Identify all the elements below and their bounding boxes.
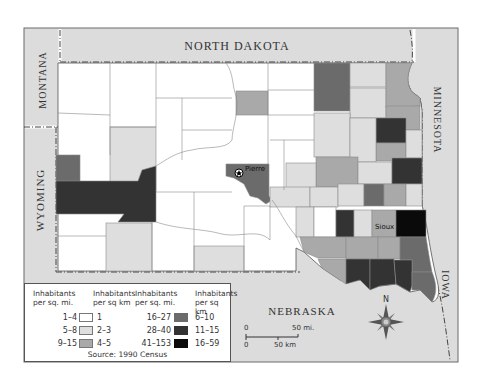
county — [338, 184, 364, 206]
legend-mi-5: 28–40 — [135, 325, 171, 336]
scale-mi-label: 50 mi. — [292, 324, 314, 332]
legend-header-km: Inhabitants per sq km — [93, 289, 133, 307]
label-wyoming: WYOMING — [34, 169, 46, 232]
county-sioux-falls — [396, 210, 426, 237]
label-iowa: IOWA — [440, 270, 451, 300]
legend-swatch-5 — [174, 326, 188, 335]
county — [350, 63, 386, 87]
county — [286, 163, 316, 189]
legend-header-mi: Inhabitants per sq. mi. — [33, 289, 75, 307]
county — [364, 184, 384, 206]
legend-km-3: 4–5 — [97, 338, 111, 349]
legend-mi-4: 16–27 — [135, 312, 171, 323]
city-label-sioux: Sioux — [375, 223, 394, 231]
legend-km-4: 6–10 — [195, 312, 214, 323]
legend-swatch-6 — [174, 339, 188, 348]
county — [336, 210, 354, 237]
county — [406, 184, 422, 206]
county — [314, 63, 350, 111]
county — [354, 210, 372, 237]
county — [236, 91, 268, 115]
county — [346, 237, 378, 259]
county — [56, 155, 80, 183]
scale-mi-zero: 0 — [244, 324, 248, 332]
county — [270, 187, 310, 207]
legend-mi-3: 9–15 — [25, 338, 77, 349]
county — [358, 162, 392, 184]
scale-km-zero: 0 — [244, 341, 248, 349]
county — [378, 237, 400, 259]
city-label-pierre: Pierre — [245, 165, 265, 173]
legend: Inhabitants per sq. mi. Inhabitants per … — [24, 283, 231, 362]
label-montana: MONTANA — [37, 51, 48, 108]
county — [392, 158, 422, 184]
compass-north-label: N — [383, 295, 389, 304]
legend-km-5: 11–15 — [195, 325, 219, 336]
legend-swatch-2 — [79, 326, 93, 335]
county — [314, 207, 336, 237]
county — [350, 118, 376, 162]
county — [316, 157, 358, 187]
legend-swatch-4 — [174, 313, 188, 322]
county — [376, 118, 406, 143]
capital-star-icon — [235, 169, 243, 177]
legend-mi-2: 5–8 — [25, 325, 77, 336]
county — [314, 113, 350, 157]
scale-km-label: 50 km — [274, 341, 296, 349]
legend-km-2: 2–3 — [97, 325, 111, 336]
label-north-dakota: NORTH DAKOTA — [184, 39, 289, 53]
legend-mi-1: 1–4 — [25, 312, 77, 323]
legend-mi-6: 41–153 — [135, 338, 171, 349]
legend-header-mi-2: Inhabitants per sq. mi. — [135, 289, 177, 307]
label-minnesota: MINNESOTA — [432, 86, 443, 153]
county — [310, 187, 338, 207]
label-nebraska: NEBRASKA — [268, 305, 335, 317]
legend-km-6: 16–59 — [195, 338, 219, 349]
county — [194, 246, 244, 271]
legend-swatch-1 — [79, 313, 93, 322]
county — [296, 207, 314, 237]
legend-source: Source: 1990 Census — [25, 350, 230, 359]
legend-km-1: 1 — [97, 312, 102, 323]
county — [384, 184, 406, 206]
legend-swatch-3 — [79, 339, 93, 348]
county — [406, 130, 422, 158]
county — [106, 223, 152, 271]
county — [350, 88, 386, 118]
